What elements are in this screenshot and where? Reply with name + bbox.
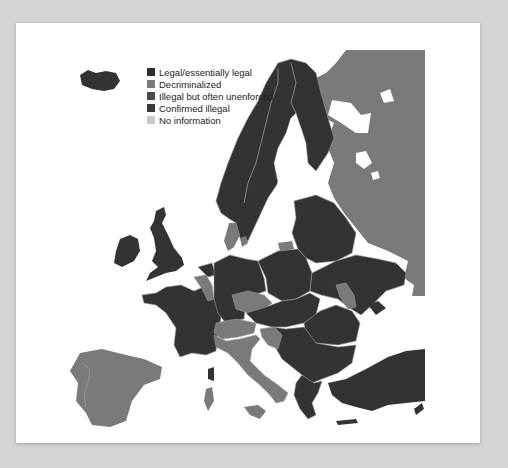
region-poland[interactable] xyxy=(258,249,312,301)
region-greece[interactable] xyxy=(294,375,322,419)
legend-item-legal: Legal/essentially legal xyxy=(147,66,274,78)
legend-item-decriminalized: Decriminalized xyxy=(147,78,274,90)
region-switzerland[interactable] xyxy=(214,319,256,339)
legend-label: Decriminalized xyxy=(159,79,221,90)
illegal-swatch-icon xyxy=(147,104,155,112)
region-uk[interactable] xyxy=(146,207,184,281)
legend-item-illegal: Confirmed illegal xyxy=(147,102,274,114)
region-ukraine[interactable] xyxy=(310,255,406,315)
region-iceland[interactable] xyxy=(80,70,120,91)
region-netherlands[interactable] xyxy=(198,263,216,277)
legend-label: Legal/essentially legal xyxy=(159,67,252,78)
legend-label: Illegal but often unenforced xyxy=(159,91,274,102)
legal-swatch-icon xyxy=(147,68,155,76)
region-ireland[interactable] xyxy=(114,235,140,267)
decriminalized-swatch-icon xyxy=(147,80,155,88)
legend-item-no-info: No information xyxy=(147,114,274,126)
legend-label: Confirmed illegal xyxy=(159,103,230,114)
unenforced-swatch-icon xyxy=(147,92,155,100)
map-legend: Legal/essentially legal Decriminalized I… xyxy=(147,66,274,126)
legend-label: No information xyxy=(159,115,221,126)
map-card: Legal/essentially legal Decriminalized I… xyxy=(16,23,480,443)
legend-item-unenforced: Illegal but often unenforced xyxy=(147,90,274,102)
no-info-swatch-icon xyxy=(147,116,155,124)
region-spain[interactable] xyxy=(70,349,162,427)
